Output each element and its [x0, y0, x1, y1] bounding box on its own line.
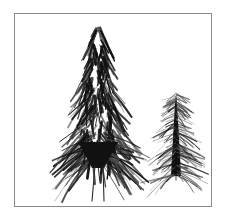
botanical-illustration-canvas — [0, 0, 226, 224]
figure-root — [0, 0, 226, 224]
